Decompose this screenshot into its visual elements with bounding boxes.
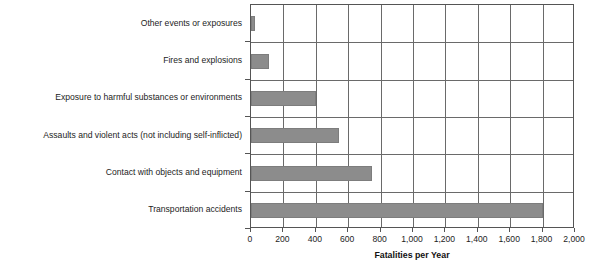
x-axis-tick xyxy=(315,228,316,232)
y-axis-tick xyxy=(245,116,250,117)
bar xyxy=(251,54,269,69)
bar xyxy=(251,203,543,218)
bar xyxy=(251,166,372,181)
x-axis-tick xyxy=(444,228,445,232)
gridline-vertical xyxy=(316,5,317,227)
gridline-horizontal xyxy=(251,80,573,81)
y-axis-tick xyxy=(245,79,250,80)
x-axis-tick xyxy=(477,228,478,232)
x-axis-tick xyxy=(574,228,575,232)
gridline-horizontal xyxy=(251,42,573,43)
x-axis-tick xyxy=(282,228,283,232)
category-label: Exposure to harmful substances or enviro… xyxy=(55,92,242,102)
category-label: Contact with objects and equipment xyxy=(106,167,242,177)
x-axis-tick xyxy=(509,228,510,232)
gridline-vertical xyxy=(381,5,382,227)
category-label: Assaults and violent acts (not including… xyxy=(43,130,242,140)
x-axis-tick xyxy=(250,228,251,232)
x-axis-tick-label: 2,000 xyxy=(554,234,594,244)
gridline-horizontal xyxy=(251,192,573,193)
gridline-vertical xyxy=(543,5,544,227)
category-label: Other events or exposures xyxy=(141,18,242,28)
fatalities-bar-chart: Other events or exposuresFires and explo… xyxy=(0,0,609,270)
gridline-vertical xyxy=(283,5,284,227)
category-label: Transportation accidents xyxy=(148,204,242,214)
y-axis-tick xyxy=(245,41,250,42)
gridline-horizontal xyxy=(251,154,573,155)
gridline-horizontal xyxy=(251,117,573,118)
gridline-vertical xyxy=(348,5,349,227)
plot-area xyxy=(250,4,574,228)
y-axis-tick xyxy=(245,153,250,154)
category-axis-labels: Other events or exposuresFires and explo… xyxy=(0,0,246,270)
x-axis-tick xyxy=(347,228,348,232)
category-label: Fires and explosions xyxy=(163,55,242,65)
x-axis-tick xyxy=(412,228,413,232)
x-axis-tick xyxy=(542,228,543,232)
x-axis-tick xyxy=(380,228,381,232)
bar xyxy=(251,128,339,143)
bar xyxy=(251,91,316,106)
gridline-vertical xyxy=(445,5,446,227)
gridline-vertical xyxy=(478,5,479,227)
bar xyxy=(251,16,255,31)
y-axis-tick xyxy=(245,191,250,192)
x-axis-title: Fatalities per Year xyxy=(250,250,574,260)
gridline-vertical xyxy=(413,5,414,227)
gridline-vertical xyxy=(510,5,511,227)
